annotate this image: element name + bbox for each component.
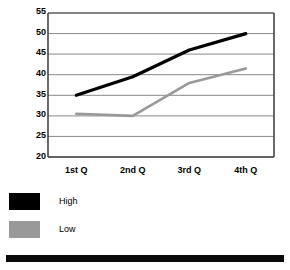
x-tick-label: 1st Q [48, 163, 105, 179]
plot-canvas [0, 0, 290, 180]
plot-area: 55 50 45 40 35 30 25 20 [0, 0, 290, 180]
chart-legend: High Low [9, 190, 209, 246]
legend-swatch-high-icon [9, 193, 40, 210]
series-line-high [76, 34, 246, 96]
legend-label-low: Low [59, 224, 76, 234]
line-chart: 55 50 45 40 35 30 25 20 [0, 0, 290, 270]
legend-swatch-low-icon [9, 221, 40, 238]
x-tick-label: 4th Q [218, 163, 275, 179]
legend-item-low: Low [9, 218, 209, 240]
x-tick-label: 3rd Q [161, 163, 218, 179]
x-tick-label: 2nd Q [105, 163, 162, 179]
legend-item-high: High [9, 190, 209, 212]
legend-label-high: High [59, 196, 78, 206]
x-axis: 1st Q 2nd Q 3rd Q 4th Q [48, 163, 274, 179]
series-line-low [76, 69, 246, 116]
bottom-black-bar [6, 255, 284, 262]
